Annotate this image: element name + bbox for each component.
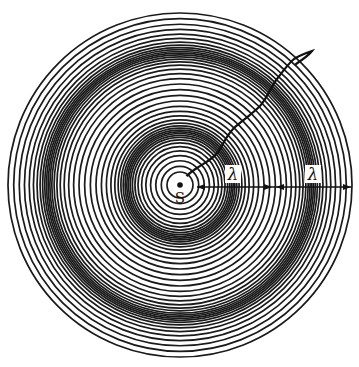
arrowhead-left-2 — [276, 184, 284, 190]
wavefront-diagram: λ λ S — [0, 0, 359, 367]
point-source-dot — [177, 182, 183, 188]
wavelength-label-1: λ — [227, 164, 239, 184]
arrowhead-right-1 — [264, 184, 272, 190]
source-label: S — [175, 189, 185, 207]
wavelength-label-2: λ — [307, 164, 319, 184]
